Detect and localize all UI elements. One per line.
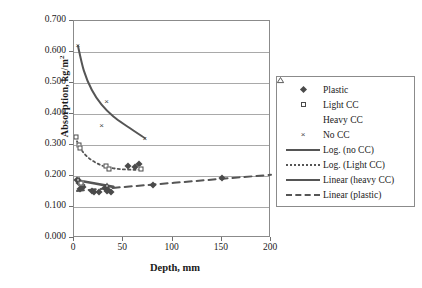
x-tick-label: 200 bbox=[250, 243, 290, 253]
trendline bbox=[77, 175, 271, 191]
legend-label: Linear (plastic) bbox=[323, 190, 381, 200]
chart-root: ×××× 0.0000.1000.2000.3000.4000.5000.600… bbox=[0, 0, 422, 288]
x-tick-label: 0 bbox=[53, 243, 93, 253]
x-tick-label: 100 bbox=[152, 243, 192, 253]
x-tick-mark bbox=[221, 237, 222, 241]
legend-dashed-line-icon bbox=[283, 187, 323, 202]
legend-thick-line-icon bbox=[283, 172, 323, 187]
legend-item: Linear (heavy CC) bbox=[277, 172, 414, 187]
trendline bbox=[78, 46, 145, 138]
legend-item: Log. (no CC) bbox=[277, 142, 414, 157]
trendline bbox=[77, 141, 141, 170]
legend-item: Heavy CC bbox=[277, 112, 414, 127]
y-axis-title-text: Absorption, kg/m bbox=[59, 59, 70, 137]
legend-item: Light CC bbox=[277, 97, 414, 112]
x-tick-mark bbox=[270, 237, 271, 241]
legend-label: Plastic bbox=[323, 85, 348, 95]
legend-item: ×No CC bbox=[277, 127, 414, 142]
x-tick-label: 50 bbox=[102, 243, 142, 253]
legend-item: Linear (plastic) bbox=[277, 187, 414, 202]
y-tick-mark bbox=[69, 206, 73, 207]
x-tick-mark bbox=[73, 237, 74, 241]
y-tick-label: 0.000 bbox=[20, 232, 66, 242]
legend-label: Light CC bbox=[323, 100, 359, 110]
x-axis-title: Depth, mm bbox=[110, 262, 240, 273]
legend-filled-diamond-icon bbox=[283, 82, 323, 97]
legend-item: Log. (Light CC) bbox=[277, 157, 414, 172]
y-tick-label: 0.700 bbox=[20, 15, 66, 25]
x-tick-label: 150 bbox=[201, 243, 241, 253]
y-tick-label: 0.200 bbox=[20, 170, 66, 180]
legend-label: Heavy CC bbox=[323, 115, 363, 125]
x-tick-mark bbox=[172, 237, 173, 241]
plot-area: ×××× bbox=[73, 20, 270, 237]
y-axis-title: Absorption, kg/m2 bbox=[58, 26, 70, 166]
legend-open-triangle-icon bbox=[283, 112, 323, 127]
legend-cross-x-icon: × bbox=[283, 127, 323, 142]
y-tick-label: 0.100 bbox=[20, 201, 66, 211]
y-tick-mark bbox=[69, 20, 73, 21]
trendline bbox=[77, 180, 113, 187]
series-layer bbox=[74, 21, 271, 238]
legend-label: Log. (no CC) bbox=[323, 145, 374, 155]
legend-open-square-icon bbox=[283, 97, 323, 112]
legend-label: Linear (heavy CC) bbox=[323, 175, 394, 185]
y-axis-title-exponent: 2 bbox=[58, 55, 66, 59]
legend-solid-line-icon bbox=[283, 142, 323, 157]
legend-dotted-line-icon bbox=[283, 157, 323, 172]
legend: PlasticLight CCHeavy CC×No CCLog. (no CC… bbox=[276, 76, 415, 207]
legend-label: No CC bbox=[323, 130, 350, 140]
x-tick-mark bbox=[122, 237, 123, 241]
legend-item: Plastic bbox=[277, 82, 414, 97]
legend-label: Log. (Light CC) bbox=[323, 160, 385, 170]
y-tick-mark bbox=[69, 175, 73, 176]
